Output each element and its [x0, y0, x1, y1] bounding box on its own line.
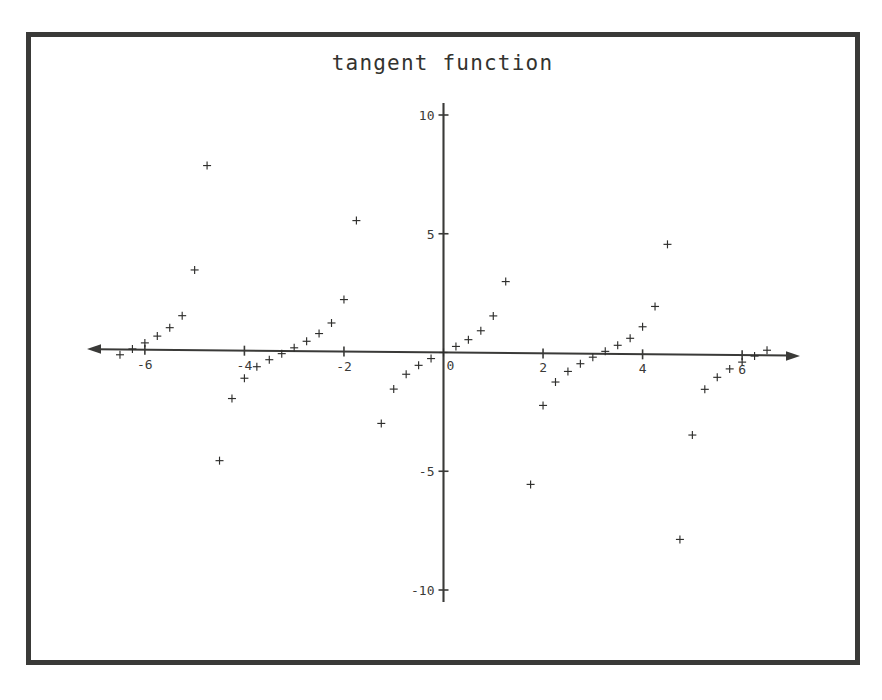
data-point-marker: [265, 356, 273, 364]
data-point-marker: [166, 324, 174, 332]
data-point-marker: [663, 240, 671, 248]
data-point-marker: [116, 351, 124, 359]
data-point-marker: [676, 535, 684, 543]
x-tick-label: -6: [137, 357, 153, 372]
data-point-marker: [415, 361, 423, 369]
data-point-marker: [502, 278, 510, 286]
data-point-marker: [178, 312, 186, 320]
figure-page: tangent function -6-4-20246-10-5510: [0, 0, 882, 700]
x-tick-label: -2: [336, 359, 352, 374]
data-point-marker: [141, 339, 149, 347]
data-point-marker: [726, 365, 734, 373]
data-point-marker: [551, 378, 559, 386]
data-point-marker: [203, 162, 211, 170]
data-point-marker: [614, 341, 622, 349]
x-axis-right-arrow: [786, 351, 800, 360]
data-point-marker: [763, 346, 771, 354]
plot-area: tangent function -6-4-20246-10-5510: [27, 33, 858, 663]
y-tick-label: -10: [411, 583, 434, 598]
x-tick-label: 2: [539, 360, 547, 375]
data-point-marker: [751, 352, 759, 360]
data-point-marker: [240, 374, 248, 382]
data-point-marker: [153, 332, 161, 340]
data-point-marker: [688, 431, 696, 439]
scatter-canvas: -6-4-20246-10-5510: [27, 33, 858, 663]
data-point-marker: [713, 373, 721, 381]
data-point-marker: [340, 296, 348, 304]
data-point-marker: [303, 337, 311, 345]
data-point-marker: [489, 312, 497, 320]
data-point-marker: [527, 480, 535, 488]
x-axis-left-arrow: [87, 344, 101, 353]
y-tick-label: -5: [419, 464, 435, 479]
y-tick-label: 5: [427, 227, 435, 242]
data-point-marker: [128, 345, 136, 353]
data-point-marker: [626, 334, 634, 342]
data-point-marker: [315, 330, 323, 338]
data-point-marker: [328, 319, 336, 327]
x-tick-label: 4: [639, 361, 647, 376]
data-point-marker: [576, 360, 584, 368]
data-point-marker: [639, 323, 647, 331]
data-point-marker: [464, 336, 472, 344]
x-tick-label: -4: [237, 358, 253, 373]
y-tick-label: 10: [419, 108, 435, 123]
data-point-marker: [228, 395, 236, 403]
data-point-marker: [253, 363, 261, 371]
data-point-marker: [402, 370, 410, 378]
data-point-marker: [440, 349, 448, 357]
x-tick-label: 0: [447, 358, 455, 373]
data-point-marker: [390, 385, 398, 393]
data-point-marker: [539, 401, 547, 409]
data-point-marker: [701, 385, 709, 393]
data-point-marker: [477, 327, 485, 335]
data-point-marker: [216, 457, 224, 465]
data-point-marker: [377, 419, 385, 427]
data-point-marker: [427, 355, 435, 363]
data-point-marker: [564, 367, 572, 375]
data-point-marker: [191, 266, 199, 274]
data-point-marker: [352, 217, 360, 225]
data-point-marker: [452, 342, 460, 350]
data-point-marker: [651, 302, 659, 310]
